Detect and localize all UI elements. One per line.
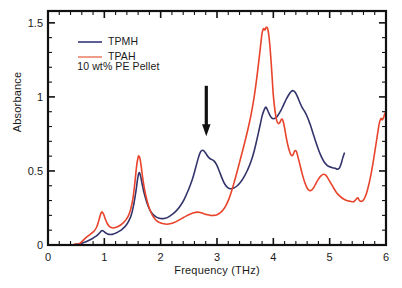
x-tick-label: 6 xyxy=(371,251,401,263)
y-tick-label: 0.5 xyxy=(13,165,43,177)
x-tick-label: 3 xyxy=(202,251,232,263)
legend-label-tpmh: TPMH xyxy=(108,35,138,47)
x-tick-label: 0 xyxy=(33,251,63,263)
sample-note: 10 wt% PE Pellet xyxy=(77,60,159,72)
y-axis-label: Absorbance xyxy=(11,52,23,152)
y-tick-label: 1.5 xyxy=(13,17,43,29)
absorbance-spectrum-figure: 00.511.50123456AbsorbanceFrequency (THz)… xyxy=(0,0,402,288)
x-tick-label: 1 xyxy=(89,251,119,263)
x-axis-label: Frequency (THz) xyxy=(48,264,386,276)
plot-frame xyxy=(48,11,386,245)
y-tick-label: 0 xyxy=(13,239,43,251)
x-tick-label: 4 xyxy=(258,251,288,263)
x-tick-label: 5 xyxy=(315,251,345,263)
chart-canvas xyxy=(0,0,402,288)
x-tick-label: 2 xyxy=(146,251,176,263)
